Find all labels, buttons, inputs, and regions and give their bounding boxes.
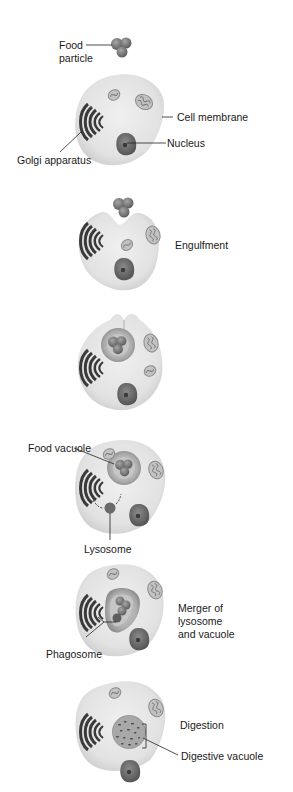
label-merger-line1: Merger of <box>178 602 223 614</box>
label-food-vacuole: Food vacuole <box>28 442 91 454</box>
label-digestion: Digestion <box>180 719 224 731</box>
stage-6-cell <box>76 681 178 782</box>
stage-2-cell <box>79 198 162 291</box>
label-merger-line3: and vacuole <box>178 628 235 640</box>
phagocytosis-diagram: Food particle Cell membrane Nucleus Golg… <box>0 0 293 792</box>
label-phagosome: Phagosome <box>46 648 102 660</box>
stage-4-cell <box>74 440 166 540</box>
label-engulfment: Engulfment <box>175 239 228 251</box>
label-cell-membrane: Cell membrane <box>177 111 248 123</box>
stage-3-cell <box>78 314 163 410</box>
stage-5-cell <box>76 564 165 656</box>
label-food-particle-line2: particle <box>59 52 93 64</box>
label-food-particle-line1: Food <box>59 39 83 51</box>
nucleus-icon <box>116 133 136 155</box>
label-golgi-apparatus: Golgi apparatus <box>17 154 91 166</box>
diagram-graphics <box>0 0 293 792</box>
label-merger-line2: lysosome <box>178 615 222 627</box>
food-particle-icon <box>111 38 132 58</box>
lysosome-icon <box>105 503 116 514</box>
label-nucleus: Nucleus <box>167 137 205 149</box>
food-particle-icon <box>113 198 134 218</box>
label-digestive-vacuole: Digestive vacuole <box>181 750 263 762</box>
label-lysosome: Lysosome <box>84 543 131 555</box>
